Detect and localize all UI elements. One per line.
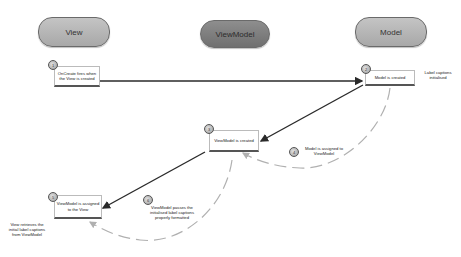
- step-3-box: ViewModel is created: [209, 130, 259, 152]
- step-6-text: ViewModel passes the initialised label c…: [150, 205, 194, 221]
- arrow-model-to-viewmodel: [261, 85, 363, 141]
- step-5-text: ViewModel is assigned to the View: [56, 201, 100, 211]
- step-1-text: OnCreate fires when the View is created: [56, 71, 98, 81]
- lane-model: Model: [355, 17, 427, 47]
- lane-view: View: [38, 17, 110, 47]
- step-3-text: ViewModel is created: [214, 138, 254, 143]
- step-2-badge: 2: [361, 64, 371, 74]
- step-4-text: Model is assigned to ViewModel: [302, 146, 346, 156]
- step-6-badge: 6: [143, 195, 153, 205]
- lane-viewmodel-label: ViewModel: [216, 30, 255, 39]
- step-3-badge: 3: [204, 124, 214, 134]
- step-4-badge: 4: [289, 147, 299, 157]
- step-2-box: Model is created: [365, 70, 415, 86]
- note-view-retrieves-captions: View retrieves the initial label caption…: [6, 222, 48, 238]
- lane-viewmodel: ViewModel: [200, 20, 270, 48]
- note-label-captions-initialised: Label captions initialised: [420, 70, 456, 80]
- step-1-box: OnCreate fires when the View is created: [54, 66, 100, 87]
- arrow-viewmodel-to-view: [103, 152, 205, 208]
- step-1-badge: 1: [48, 60, 58, 70]
- step-5-box: ViewModel is assigned to the View: [54, 195, 102, 219]
- dashed-arrow-captions-to-view: [90, 160, 232, 240]
- step-2-text: Model is created: [375, 75, 406, 80]
- lane-model-label: Model: [380, 28, 402, 37]
- step-5-badge: 5: [48, 192, 58, 202]
- lane-view-label: View: [65, 28, 82, 37]
